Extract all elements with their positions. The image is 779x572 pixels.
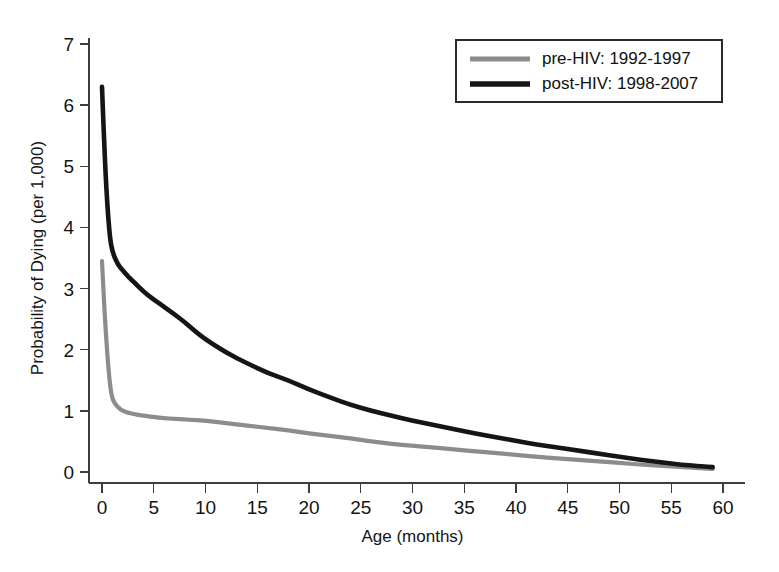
x-tick-label: 25 <box>350 497 371 518</box>
series-line-post-hiv <box>102 87 713 467</box>
x-tick-label: 20 <box>298 497 319 518</box>
series-line-pre-hiv <box>102 261 713 469</box>
y-tick-label: 1 <box>63 401 74 422</box>
y-tick-label: 3 <box>63 279 74 300</box>
y-tick-label: 0 <box>63 462 74 483</box>
x-tick-label: 30 <box>402 497 423 518</box>
x-tick-label: 60 <box>712 497 733 518</box>
x-tick-label: 50 <box>609 497 630 518</box>
legend-label-post-hiv: post-HIV: 1998-2007 <box>542 74 698 93</box>
x-tick-label: 15 <box>247 497 268 518</box>
x-axis-title: Age (months) <box>361 527 463 546</box>
x-tick-label: 55 <box>661 497 682 518</box>
y-tick-label: 4 <box>63 217 74 238</box>
line-chart: 01234567051015202530354045505560Age (mon… <box>0 0 779 572</box>
y-tick-label: 2 <box>63 340 74 361</box>
legend-label-pre-hiv: pre-HIV: 1992-1997 <box>542 49 691 68</box>
x-tick-label: 10 <box>195 497 216 518</box>
y-axis-title: Probability of Dying (per 1,000) <box>28 141 47 375</box>
x-tick-label: 35 <box>454 497 475 518</box>
figure-container: 01234567051015202530354045505560Age (mon… <box>0 0 779 572</box>
x-tick-label: 5 <box>148 497 159 518</box>
y-tick-label: 6 <box>63 95 74 116</box>
y-tick-label: 7 <box>63 34 74 55</box>
x-tick-label: 45 <box>557 497 578 518</box>
x-tick-label: 0 <box>97 497 108 518</box>
x-tick-label: 40 <box>505 497 526 518</box>
y-tick-label: 5 <box>63 156 74 177</box>
